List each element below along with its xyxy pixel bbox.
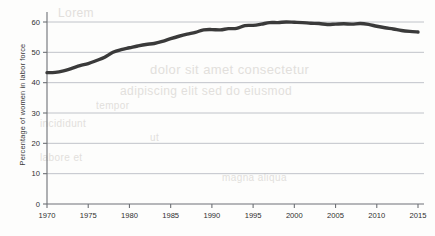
x-tick-label: 2005 (327, 211, 344, 220)
x-tick-label: 2000 (286, 211, 303, 220)
gridlines (47, 22, 424, 174)
x-axis-ticks: 1970197519801985199019952000200520102015 (39, 204, 427, 220)
y-tick-label: 0 (36, 200, 40, 209)
x-tick-label: 1975 (80, 211, 97, 220)
chart-plot-area: 0102030405060 19701975198019851990199520… (0, 0, 435, 236)
y-tick-label: 10 (32, 169, 40, 178)
x-tick-label: 1970 (39, 211, 56, 220)
x-tick-label: 1985 (162, 211, 179, 220)
y-tick-label: 30 (32, 109, 40, 118)
x-tick-label: 1995 (245, 211, 262, 220)
y-tick-label: 40 (32, 78, 40, 87)
y-tick-label: 20 (32, 139, 40, 148)
y-tick-label: 60 (32, 18, 40, 27)
data-series-line (47, 22, 418, 73)
chart-figure: Lorem dolor sit amet consectetur adipisc… (0, 0, 435, 236)
x-tick-label: 1990 (203, 211, 220, 220)
x-tick-label: 2015 (410, 211, 427, 220)
x-tick-label: 1980 (121, 211, 138, 220)
x-tick-label: 2010 (368, 211, 385, 220)
y-axis-ticks: 0102030405060 (32, 18, 47, 209)
y-tick-label: 50 (32, 48, 40, 57)
